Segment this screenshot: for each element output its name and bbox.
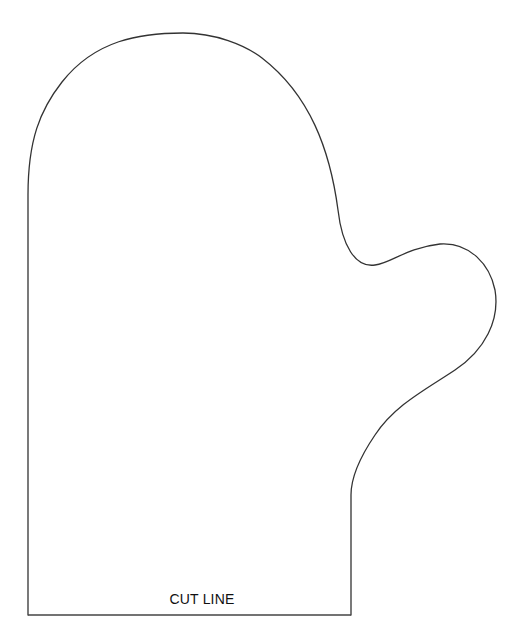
mitten-template (0, 0, 517, 641)
mitten-outline (28, 33, 496, 615)
cut-line-label: CUT LINE (0, 591, 404, 607)
